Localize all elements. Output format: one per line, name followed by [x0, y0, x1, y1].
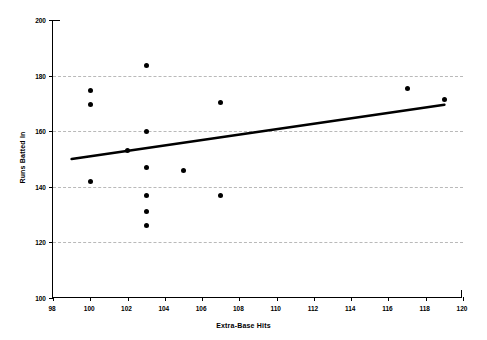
- x-tick-label: 100: [84, 305, 95, 312]
- data-point: [144, 223, 149, 228]
- y-tick-label: 160: [22, 128, 46, 135]
- data-point: [144, 193, 149, 198]
- y-tick-label: 180: [22, 72, 46, 79]
- x-tick-label: 102: [121, 305, 132, 312]
- x-tick-label: 110: [270, 305, 281, 312]
- data-point: [144, 129, 149, 134]
- data-point: [442, 97, 447, 102]
- data-point: [181, 168, 186, 173]
- scatter-chart: Runs Batted In Extra-Base Hits 100120140…: [0, 0, 487, 340]
- y-tick-label: 120: [22, 239, 46, 246]
- y-axis-title: Runs Batted In: [19, 98, 26, 218]
- data-point: [218, 100, 223, 105]
- x-tick-label: 116: [382, 305, 393, 312]
- y-tick-label: 100: [22, 295, 46, 302]
- y-tick-label: 200: [22, 17, 46, 24]
- x-axis-title: Extra-Base Hits: [0, 322, 487, 329]
- x-tick-label: 114: [345, 305, 356, 312]
- plot-area: [52, 20, 462, 298]
- x-tick-label: 120: [457, 305, 468, 312]
- data-point: [144, 165, 149, 170]
- x-tick-label: 106: [196, 305, 207, 312]
- x-tick-label: 118: [419, 305, 430, 312]
- x-tick-label: 98: [48, 305, 55, 312]
- data-point: [405, 86, 410, 91]
- y-tick-label: 140: [22, 183, 46, 190]
- trendline: [53, 20, 463, 298]
- x-tick-label: 108: [233, 305, 244, 312]
- data-point: [88, 179, 93, 184]
- data-point: [218, 193, 223, 198]
- x-tick-label: 112: [308, 305, 319, 312]
- x-tick-label: 104: [158, 305, 169, 312]
- x-tick-mark: [463, 297, 464, 301]
